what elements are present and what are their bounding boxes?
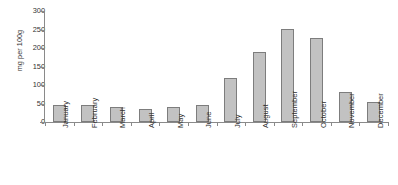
x-tick-label-july: July bbox=[234, 114, 241, 128]
x-tick-label-september: September bbox=[291, 91, 298, 128]
x-tick-mark bbox=[217, 122, 218, 126]
x-tick-label-november: November bbox=[348, 93, 355, 128]
x-tick-mark bbox=[245, 122, 246, 126]
x-tick-label-december: December bbox=[377, 93, 384, 128]
caption-sliver bbox=[0, 181, 398, 185]
x-tick-label-may: May bbox=[177, 114, 184, 128]
x-tick-label-june: June bbox=[205, 112, 212, 128]
x-tick-label-august: August bbox=[262, 104, 269, 128]
x-tick-mark bbox=[74, 122, 75, 126]
x-tick-label-january: January bbox=[62, 101, 69, 128]
x-tick-mark bbox=[45, 122, 46, 126]
x-tick-mark bbox=[274, 122, 275, 126]
x-tick-mark bbox=[388, 122, 389, 126]
x-tick-mark bbox=[102, 122, 103, 126]
x-tick-label-april: April bbox=[148, 113, 155, 128]
x-tick-label-february: February bbox=[91, 98, 98, 128]
x-tick-label-march: March bbox=[119, 107, 126, 128]
bar-chart-figure: mg per 100g 050100150200250300 JanuaryFe… bbox=[0, 0, 398, 185]
x-tick-label-october: October bbox=[320, 101, 327, 128]
x-tick-mark bbox=[359, 122, 360, 126]
x-tick-mark bbox=[331, 122, 332, 126]
x-tick-mark bbox=[159, 122, 160, 126]
x-tick-mark bbox=[302, 122, 303, 126]
x-tick-mark bbox=[188, 122, 189, 126]
x-tick-mark bbox=[131, 122, 132, 126]
